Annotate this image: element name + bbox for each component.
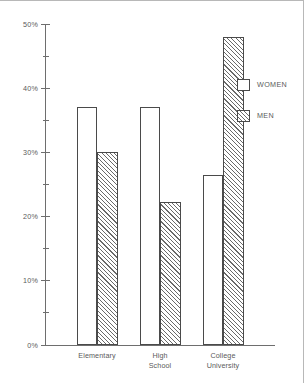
y-axis-tick-label: 10%	[8, 276, 38, 285]
legend-item: MEN	[237, 109, 297, 122]
y-axis-tick-label: 50%	[8, 20, 38, 29]
bar	[160, 202, 181, 344]
y-axis-tick-label: 30%	[8, 148, 38, 157]
y-axis-tick-label: 0%	[8, 340, 38, 349]
y-tick-minor	[43, 184, 49, 185]
bar	[140, 107, 161, 344]
y-tick-major	[41, 216, 50, 217]
x-axis-category-label: CollegeUniversity	[184, 351, 262, 370]
y-tick-minor	[43, 248, 49, 249]
y-tick-major	[41, 88, 50, 89]
legend-swatch	[237, 79, 250, 91]
legend-swatch	[237, 110, 250, 122]
bar-chart: 0%10%20%30%40%50% ElementaryHighSchoolCo…	[0, 0, 304, 383]
legend: WOMENMEN	[237, 78, 297, 140]
plot-area: 0%10%20%30%40%50% ElementaryHighSchoolCo…	[0, 1, 304, 383]
bar	[203, 175, 224, 345]
category-label-line: College	[184, 351, 262, 361]
y-tick-major	[41, 280, 50, 281]
y-tick-major	[41, 24, 50, 25]
y-tick-minor	[43, 56, 49, 57]
legend-label: MEN	[257, 111, 274, 120]
y-tick-major	[41, 152, 50, 153]
y-tick-major	[41, 345, 50, 346]
bar	[77, 107, 98, 344]
bar	[97, 152, 118, 344]
y-tick-minor	[43, 120, 49, 121]
category-label-line: University	[184, 361, 262, 371]
y-axis-tick-label: 20%	[8, 212, 38, 221]
y-tick-minor	[43, 312, 49, 313]
x-axis-line	[45, 345, 275, 346]
legend-item: WOMEN	[237, 78, 297, 91]
y-axis-tick-label: 40%	[8, 84, 38, 93]
legend-label: WOMEN	[257, 80, 287, 89]
